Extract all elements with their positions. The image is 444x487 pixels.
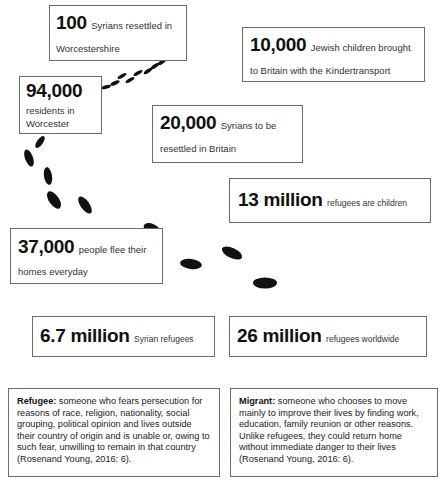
stat-text-line1: residents in [26, 105, 95, 116]
definition-text: someone who chooses to move mainly to im… [239, 396, 419, 464]
definition-text: someone who fears persecution for reason… [17, 396, 210, 464]
stat-text-line2: Worcester [26, 118, 95, 129]
stat-box-worcester-residents: 94,000 residents in Worcester [19, 76, 102, 134]
stat-number: 26 million [237, 325, 322, 346]
stat-box-worldwide: 26 million refugees worldwide [229, 316, 427, 357]
definition-refugee: Refugee: someone who fears persecution f… [8, 388, 220, 477]
stat-number: 13 million [238, 189, 323, 210]
stat-text: people flee their [79, 244, 147, 255]
definition-migrant: Migrant: someone who chooses to move mai… [230, 388, 438, 477]
stat-text: Syrians resettled in [91, 20, 172, 31]
stat-text-line2: to Britain with the Kindertransport [250, 65, 417, 76]
stat-text-line2: homes everyday [18, 266, 155, 277]
stat-text: Syrians to be [221, 120, 276, 131]
stat-text: refugees worldwide [326, 334, 399, 344]
definition-term: Migrant: [239, 396, 275, 406]
stat-number: 94,000 [26, 80, 95, 102]
stat-text: refugees are children [327, 198, 407, 208]
stat-number: 20,000 [160, 112, 216, 133]
stat-box-kindertransport: 10,000 Jewish children brought to Britai… [242, 27, 425, 82]
stat-number: 6.7 million [40, 325, 130, 346]
stat-text-line2: resettled in Britain [160, 143, 295, 154]
stat-number: 37,000 [18, 236, 74, 257]
stat-box-children: 13 million refugees are children [229, 178, 431, 223]
stat-text: Syrian refugees [134, 334, 194, 344]
stat-box-worcestershire: 100 Syrians resettled in Worcestershire [49, 5, 187, 61]
stat-box-flee-daily: 37,000 people flee their homes everyday [10, 228, 163, 284]
stat-text: Jewish children brought [311, 42, 411, 53]
stat-number: 100 [56, 12, 87, 33]
definition-term: Refugee: [17, 396, 56, 406]
stat-number: 10,000 [250, 34, 306, 55]
stat-box-britain-resettle: 20,000 Syrians to be resettled in Britai… [152, 105, 303, 163]
stat-box-syrian-refugees: 6.7 million Syrian refugees [32, 316, 215, 357]
stat-text-line2: Worcestershire [56, 43, 180, 54]
